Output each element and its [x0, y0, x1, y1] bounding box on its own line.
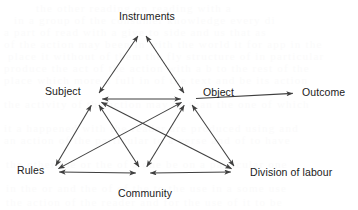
node-label-instruments: Instruments [119, 10, 175, 22]
edge-object-community [147, 105, 185, 167]
edge-subject-rules [56, 105, 92, 166]
edge-rules-community [59, 172, 136, 173]
activity-system-figure: the other reading on reading with ain a … [0, 0, 358, 210]
node-label-rules: Rules [17, 164, 44, 176]
node-label-community: Community [118, 187, 172, 199]
node-label-object: Object [203, 86, 234, 98]
edge-community-division-of-labour [150, 172, 231, 173]
node-label-division-of-labour: Division of labour [250, 166, 332, 178]
edge-object-division-of-labour [192, 105, 234, 166]
edge-subject-instruments [99, 36, 138, 93]
activity-triangle-svg [0, 0, 358, 210]
node-label-outcome: Outcome [302, 86, 345, 98]
edge-instruments-object [146, 36, 184, 93]
edge-layer [56, 36, 293, 173]
node-label-subject: Subject [45, 85, 81, 97]
